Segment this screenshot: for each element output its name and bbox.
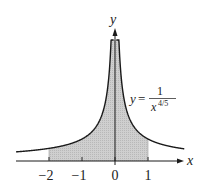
y-axis-label: y <box>108 12 117 27</box>
svg-text:1: 1 <box>157 84 163 98</box>
svg-text:4/5: 4/5 <box>158 99 168 108</box>
x-tick-label: 0 <box>112 168 119 183</box>
x-tick-label: −1 <box>72 168 87 183</box>
x-tick-label: 1 <box>145 168 152 183</box>
x-tick-label: −2 <box>39 168 54 183</box>
y-axis-arrow-icon <box>113 28 118 36</box>
chart: −2−101 x y y = 1 x 4/5 <box>0 0 201 187</box>
svg-text:=: = <box>138 91 145 106</box>
svg-text:y: y <box>128 91 136 106</box>
equation-label: y = 1 x 4/5 <box>128 84 176 114</box>
svg-text:x: x <box>150 100 157 114</box>
x-axis-label: x <box>186 153 194 168</box>
x-axis-arrow-icon <box>177 159 184 164</box>
x-tick-labels: −2−101 <box>39 168 152 183</box>
